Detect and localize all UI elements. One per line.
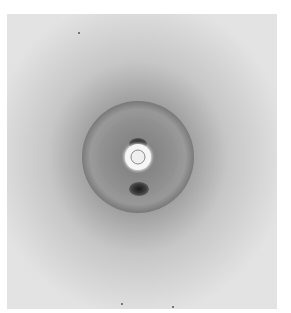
meridional-spot-bottom [129, 182, 149, 196]
dust-speck [78, 32, 80, 34]
diffraction-photograph [7, 14, 277, 309]
beam-stop-inner-ring [131, 150, 146, 165]
dust-speck [121, 303, 123, 305]
dust-speck [172, 306, 174, 308]
